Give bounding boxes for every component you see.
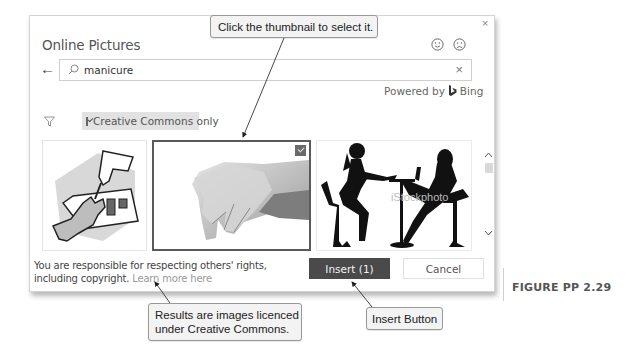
search-box[interactable]: × [59,59,472,81]
learn-more-link[interactable]: Learn more here [132,273,212,284]
smiley-face-icon[interactable] [431,38,444,51]
watermark-text: iStockphoto [391,191,448,203]
search-input[interactable] [84,62,444,78]
powered-by-label: Powered by [384,85,445,97]
callout-click-thumbnail: Click the thumbnail to select it. [210,15,378,38]
cancel-button[interactable]: Cancel [403,258,484,279]
frowning-face-icon[interactable] [453,38,466,51]
callout-creative-commons-line2: under Creative Commons. [155,322,301,336]
back-arrow-icon[interactable]: ← [40,60,55,78]
filter-icon[interactable] [44,116,55,127]
close-icon[interactable]: × [482,17,488,29]
creative-commons-filter[interactable]: Creative Commons only [82,112,199,130]
thumbnail-clipart-manicure[interactable] [42,140,147,251]
bing-logo-icon [448,85,457,97]
scrollbar-thumb[interactable] [485,163,493,173]
dialog-title: Online Pictures [42,37,140,53]
copyright-notice: You are responsible for respecting other… [34,259,284,285]
salon-silhouette-image: iStockphoto [317,141,471,250]
manicured-hands-photo [154,142,309,249]
figure-divider [503,268,504,301]
scroll-down-icon[interactable] [484,228,493,238]
scroll-up-icon[interactable] [484,150,493,160]
callout-creative-commons-line1: Results are images licenced [155,308,301,322]
checkbox-icon[interactable] [86,117,88,126]
search-icon [68,64,79,75]
callout-creative-commons: Results are images licenced under Creati… [148,303,302,341]
clear-search-icon[interactable]: × [455,63,463,77]
callout-insert-button: Insert Button [366,307,443,330]
creative-commons-label: Creative Commons only [93,115,219,127]
bing-brand: Bing [460,85,483,97]
selected-checkmark-icon [295,145,306,156]
thumbnail-salon-silhouette[interactable]: iStockphoto [316,140,472,251]
powered-by-bing: Powered by Bing [384,85,483,97]
figure-label: FIGURE PP 2.29 [512,281,611,294]
thumbnail-manicured-hands[interactable] [152,140,311,251]
insert-button[interactable]: Insert (1) [309,258,390,279]
manicure-clipart-image [43,141,146,250]
